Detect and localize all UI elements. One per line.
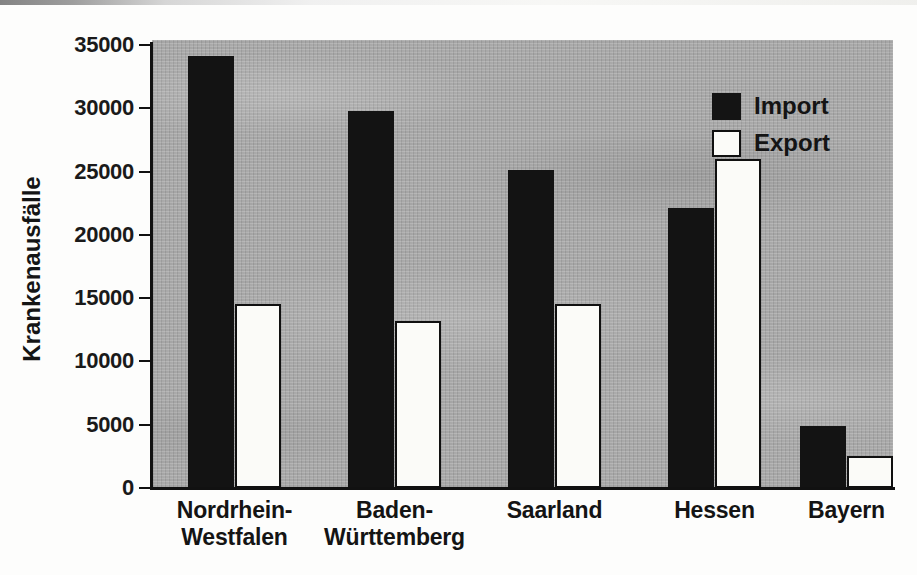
bar-chart: ImportExport 050001000015000200002500030… [0, 0, 917, 575]
bar-export-saarland [555, 304, 601, 488]
x-axis-line [150, 487, 895, 490]
legend-label: Import [754, 92, 829, 120]
plot-area: ImportExport [152, 40, 893, 488]
bar-import-nordrhein [188, 56, 234, 488]
y-axis-title: Krankenausfälle [18, 119, 46, 419]
bar-export-bayern [847, 456, 893, 488]
y-axis-tick [139, 424, 151, 426]
y-axis-tick [139, 487, 151, 489]
y-axis-tick [139, 44, 151, 46]
y-axis-tick [139, 297, 151, 299]
legend-label: Export [754, 129, 830, 157]
y-axis-tick-label: 0 [4, 475, 134, 501]
y-axis-tick [139, 107, 151, 109]
legend-swatch-import-icon [712, 93, 741, 120]
chart-legend: ImportExport [712, 92, 830, 157]
bar-import-saarland [508, 170, 554, 488]
x-axis-category-label: Bayern [737, 497, 917, 524]
bar-import-hessen [668, 208, 714, 488]
category-label-line: Württemberg [285, 524, 505, 551]
bar-import-baden [348, 111, 394, 488]
legend-swatch-export-icon [712, 130, 741, 157]
y-axis-tick [139, 360, 151, 362]
bar-export-hessen [715, 159, 761, 488]
legend-item-import: Import [712, 92, 830, 120]
bar-export-baden [395, 321, 441, 488]
bar-import-bayern [800, 426, 846, 488]
bar-export-nordrhein [235, 304, 281, 488]
category-label-line: Bayern [737, 497, 917, 524]
legend-item-export: Export [712, 129, 830, 157]
y-axis-tick [139, 234, 151, 236]
y-axis-tick-label: 30000 [4, 95, 134, 121]
y-axis-tick [139, 171, 151, 173]
y-axis-tick-label: 35000 [4, 32, 134, 58]
